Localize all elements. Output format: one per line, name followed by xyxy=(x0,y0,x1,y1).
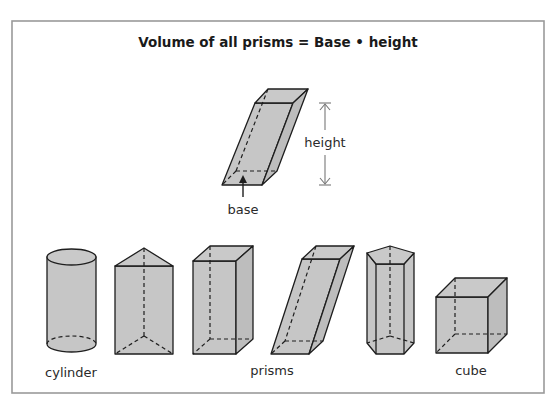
cylinder-top xyxy=(47,249,96,265)
triangular-prism-shape xyxy=(115,248,173,354)
cube-label: cube xyxy=(455,363,487,378)
rectangular-prism-front-face xyxy=(193,261,236,354)
prisms-label: prisms xyxy=(250,363,294,378)
base-label: base xyxy=(228,202,259,217)
diagram-title: Volume of all prisms = Base • height xyxy=(138,34,418,50)
rectangular-prism-side-face xyxy=(236,246,253,354)
cylinder-label: cylinder xyxy=(45,365,98,380)
prism-volume-diagram: Volume of all prisms = Base • height hei… xyxy=(0,0,559,404)
rectangular-prism-shape xyxy=(193,246,253,354)
cube-shape xyxy=(436,278,507,353)
pentagonal-prism-shape xyxy=(367,246,414,354)
cylinder-shape xyxy=(47,249,96,352)
height-label: height xyxy=(304,135,345,150)
